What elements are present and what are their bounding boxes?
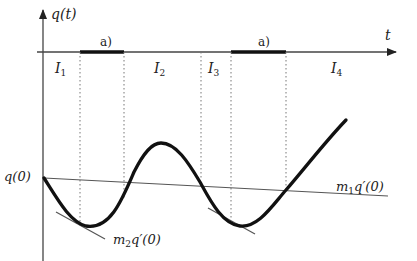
interval-label-2: I2 — [153, 60, 165, 78]
dotted-guides — [80, 52, 286, 228]
t-axis-label: t — [385, 27, 391, 43]
interval-label-4: I4 — [330, 60, 343, 78]
interval-label-3: I3 — [207, 60, 220, 78]
diagram-canvas: q(t) t a) a) I1 I2 I3 I4 q(0) m1q′(0) m2… — [0, 0, 417, 261]
y-axis-label: q(t) — [51, 6, 77, 22]
m2-label: m2q′(0) — [113, 232, 161, 249]
q-curve — [44, 120, 346, 226]
tangent-line-m2-second — [208, 208, 255, 234]
segment-label-a-1: a) — [100, 35, 112, 49]
initial-value-label: q(0) — [4, 169, 31, 184]
m1-label: m1q′(0) — [336, 179, 384, 196]
interval-label-1: I1 — [54, 60, 66, 78]
segment-label-a-2: a) — [258, 35, 270, 49]
